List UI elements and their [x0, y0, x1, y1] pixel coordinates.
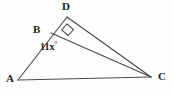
angle-label-b: 11x° — [40, 41, 57, 52]
degree-symbol-icon: ° — [54, 40, 57, 48]
segment-ac — [18, 77, 151, 80]
vertex-label-b: B — [33, 24, 40, 35]
right-angle-marker-icon — [62, 24, 74, 36]
angle-value-b: 11x — [40, 41, 54, 52]
diagram-canvas — [0, 0, 173, 95]
segment-bc — [51, 33, 151, 77]
segment-dc — [67, 17, 151, 77]
geometry-figure: A B C D 11x° — [0, 0, 173, 95]
vertex-label-c: C — [158, 71, 166, 82]
vertex-label-a: A — [6, 73, 14, 84]
vertex-label-d: D — [62, 1, 70, 12]
